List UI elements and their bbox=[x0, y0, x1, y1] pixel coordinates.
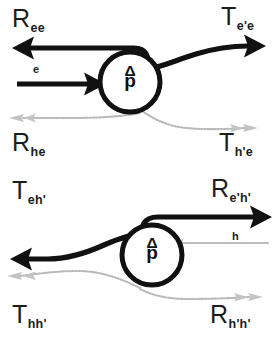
label-R-he: Rhe bbox=[12, 130, 45, 155]
label-T-h-prime-e: Th'e bbox=[219, 130, 252, 155]
scattering-diagram: Ree Te'e Rhe Th'e e Δ p bbox=[0, 0, 276, 343]
incoming-electron-arrow-top bbox=[17, 73, 106, 96]
label-R-h-prime-h-prime: Rh'h' bbox=[210, 302, 250, 327]
label-R-ee: Ree bbox=[12, 6, 44, 31]
label-T-ee-prime: Te'e bbox=[221, 4, 254, 29]
incoming-electron-label: e bbox=[33, 64, 39, 75]
electron-transmission-path-top bbox=[143, 35, 266, 71]
label-T-hh-prime: Thh' bbox=[12, 302, 46, 327]
hole-reflection-path-bottom bbox=[140, 289, 263, 301]
label-R-e-prime-h-prime: Re'h' bbox=[211, 176, 250, 201]
pair-potential-label-top: Δ p bbox=[113, 65, 147, 89]
hole-reflection-path-top bbox=[9, 113, 140, 123]
hole-transmission-path-top bbox=[139, 109, 258, 132]
hole-transmission-path-bottom bbox=[7, 271, 140, 288]
pair-potential-label-bottom: Δ p bbox=[135, 237, 169, 261]
incoming-hole-label: h bbox=[232, 231, 239, 242]
label-T-eh-prime: Teh' bbox=[12, 178, 45, 203]
